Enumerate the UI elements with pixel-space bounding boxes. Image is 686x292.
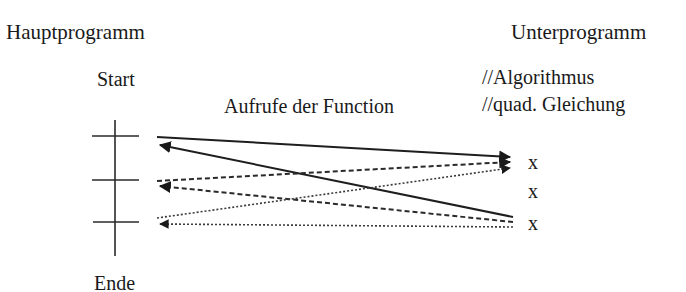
return-arrow-solid — [160, 145, 513, 217]
call-dashed — [157, 162, 513, 222]
call-flow-diagram — [0, 0, 686, 292]
call-arrow-solid — [157, 137, 510, 157]
call-arrow-dashed — [157, 162, 510, 181]
call-solid — [157, 137, 513, 217]
call-arrow-dotted — [157, 168, 510, 218]
return-arrow-dashed — [160, 186, 513, 222]
call-dotted — [157, 168, 513, 227]
return-arrow-dotted — [160, 224, 513, 227]
main-program-timeline — [92, 120, 139, 256]
diagram-canvas: Hauptprogramm Unterprogramm Start Aufruf… — [0, 0, 686, 292]
